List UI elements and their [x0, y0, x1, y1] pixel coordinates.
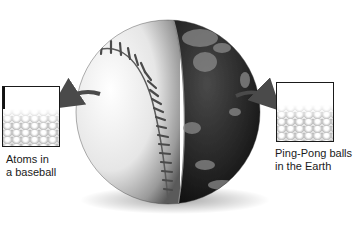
atoms-caption-line2: a baseball	[6, 166, 86, 179]
ping-pong-inset-box	[276, 82, 334, 142]
baseball-half	[60, 10, 180, 220]
ping-pong-caption-line2: in the Earth	[275, 160, 363, 173]
atoms-pattern	[3, 109, 59, 146]
atoms-caption-line1: Atoms in	[6, 153, 86, 166]
ping-pong-caption-line1: Ping-Pong balls	[275, 147, 363, 160]
ping-pong-pattern	[277, 105, 333, 141]
atoms-caption: Atoms in a baseball	[6, 153, 86, 179]
ping-pong-caption: Ping-Pong balls in the Earth	[275, 147, 363, 173]
baseball-earth-diagram: Atoms in a baseball Ping-Pong balls in t…	[0, 0, 363, 227]
atoms-inset-box	[2, 86, 60, 147]
